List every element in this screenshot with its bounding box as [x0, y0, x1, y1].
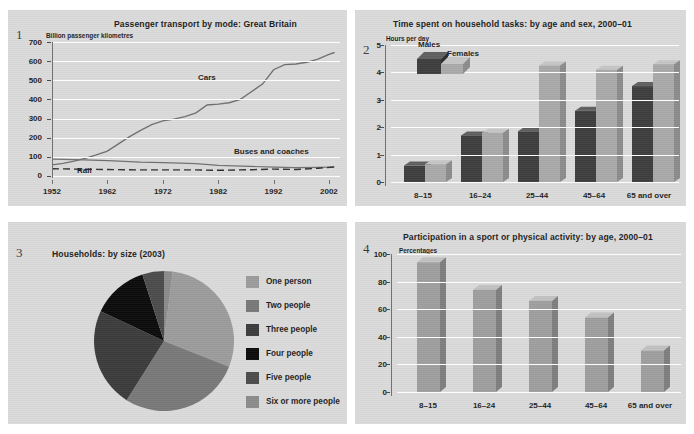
- bar-45-64: [585, 313, 614, 393]
- xtick-mark: [107, 180, 108, 184]
- ytick-mark: [380, 45, 384, 46]
- gridline: [391, 155, 679, 156]
- panel-4-xtick-2: 25–44: [517, 402, 563, 410]
- ytick-mark: [47, 42, 51, 43]
- bar-side: [552, 296, 558, 392]
- gridline: [52, 119, 340, 120]
- panel-1-ytick-600: 600: [16, 58, 42, 66]
- panel-2-ytick-0: 0: [363, 179, 381, 187]
- panel-4-ytick-60: 60: [361, 306, 387, 314]
- bar-front: [529, 301, 552, 392]
- panel-2-y-axis: [385, 45, 386, 186]
- legend-item-two-people[interactable]: Two people: [246, 300, 310, 312]
- ytick-mark: [47, 138, 51, 139]
- panel-1-xtick-2002: 2002: [311, 188, 347, 196]
- legend-item-six-or-more-people[interactable]: Six or more people: [246, 396, 340, 408]
- bar-males-front: [518, 131, 539, 182]
- bar-females-front: [482, 133, 503, 182]
- legend-label: Six or more people: [266, 398, 340, 406]
- legend-item-one-person[interactable]: One person: [246, 276, 312, 288]
- gridline: [52, 42, 340, 43]
- ytick-mark: [386, 309, 390, 310]
- legend-item-four-people[interactable]: Four people: [246, 348, 313, 360]
- bar-group-8-15: [404, 160, 452, 182]
- panel-1-xtick-1982: 1982: [200, 188, 236, 196]
- gridline: [397, 364, 681, 365]
- ytick-mark: [386, 364, 390, 365]
- ytick-mark: [386, 392, 390, 393]
- series-line-buses: [52, 159, 335, 167]
- panel-1-label-buses: Buses and coaches: [234, 148, 309, 156]
- panel-1-plot-area: Cars Buses and coaches Rail: [52, 42, 340, 176]
- panel-2-xtick-0: 8–15: [400, 192, 446, 200]
- legend-item-three-people[interactable]: Three people: [246, 324, 317, 336]
- panel-4-y-axis: [391, 254, 392, 396]
- panel-1-ytick-300: 300: [16, 115, 42, 123]
- ytick-mark: [47, 99, 51, 100]
- panel-1-y-units: Billion passenger kilometres: [46, 32, 133, 39]
- panel-4-ytick-0: 0: [361, 389, 387, 397]
- panel-3-households-by-size: 3 Households: by size (2003) One pe: [8, 222, 347, 424]
- ytick-mark: [47, 157, 51, 158]
- panel-2-xtick-2: 25–44: [514, 192, 560, 200]
- panel-3-pie: [93, 270, 235, 412]
- ytick-mark: [47, 176, 51, 177]
- panel-2-legend-label-females: Females: [447, 50, 479, 58]
- legend-item-five-people[interactable]: Five people: [246, 372, 311, 384]
- legend-label: Three people: [266, 326, 317, 334]
- bar-females-side: [617, 66, 623, 182]
- xtick-mark: [163, 180, 164, 184]
- bar-males-front: [404, 166, 425, 182]
- ytick-mark: [380, 155, 384, 156]
- panel-2-household-tasks: 2 Time spent on household tasks: by age …: [355, 10, 686, 206]
- bar-side: [440, 257, 446, 392]
- panel-4-y-units: Percentages: [399, 247, 437, 254]
- gridline: [52, 138, 340, 139]
- bar-females-side: [674, 60, 680, 182]
- ytick-mark: [386, 254, 390, 255]
- bar-16-24: [473, 285, 502, 392]
- xtick-mark: [329, 180, 330, 184]
- bar-front: [473, 290, 496, 392]
- legend-swatch-icon: [246, 396, 259, 408]
- panel-4-xtick-0: 8–15: [405, 402, 451, 410]
- bar-front: [585, 318, 608, 393]
- ytick-mark: [47, 119, 51, 120]
- ytick-mark: [47, 61, 51, 62]
- xtick-mark: [274, 180, 275, 184]
- bar-males-front: [461, 135, 482, 182]
- bar-65-and-over: [641, 346, 670, 392]
- ytick-mark: [47, 80, 51, 81]
- gridline: [52, 80, 340, 81]
- legend-swatch-icon: [246, 372, 259, 384]
- panel-2-legend-label-males: Males: [418, 41, 440, 49]
- bar-front: [641, 351, 664, 392]
- panel-1-y-axis: [52, 42, 53, 178]
- ytick-mark: [386, 337, 390, 338]
- legend-females-front: [441, 64, 463, 74]
- gridline: [391, 127, 679, 128]
- panel-2-title: Time spent on household tasks: by age an…: [393, 19, 632, 29]
- panel-1-xtick-1972: 1972: [145, 188, 181, 196]
- gridline: [391, 100, 679, 101]
- panel-2-xtick-1: 16–24: [457, 192, 503, 200]
- panel-2-ytick-5: 5: [363, 42, 381, 50]
- panel-3-number: 3: [16, 246, 23, 259]
- ytick-mark: [380, 127, 384, 128]
- panel-4-ytick-80: 80: [361, 279, 387, 287]
- ytick-mark: [380, 182, 384, 183]
- bar-side: [664, 346, 670, 392]
- panel-4-sport-participation: 4 Participation in a sport or physical a…: [355, 222, 686, 424]
- figure-page: 1 Passenger transport by mode: Great Bri…: [0, 0, 694, 434]
- xtick-mark: [218, 180, 219, 184]
- gridline: [397, 282, 681, 283]
- panel-2-ytick-2: 2: [363, 124, 381, 132]
- gridline: [397, 254, 681, 255]
- panel-1-xtick-1952: 1952: [34, 188, 70, 196]
- legend-swatch-icon: [246, 324, 259, 336]
- panel-3-title: Households: by size (2003): [52, 249, 165, 259]
- panel-1-label-cars: Cars: [198, 74, 216, 82]
- panel-4-plot-area: [397, 254, 681, 392]
- panel-1-xtick-1992: 1992: [256, 188, 292, 196]
- panel-4-ytick-100: 100: [361, 251, 387, 259]
